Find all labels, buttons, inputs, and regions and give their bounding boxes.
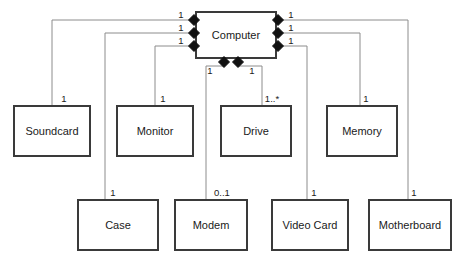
- multiplicity-diamond-bottom-left: 1: [207, 65, 212, 76]
- multiplicity-diamond-left-top: 1: [178, 9, 183, 20]
- class-box-drive-label: Drive: [243, 125, 269, 137]
- multiplicity-diamond-right-middle: 1: [288, 22, 293, 33]
- diagram-canvas: ComputerSoundcardMonitorDriveMemoryCaseM…: [0, 0, 460, 268]
- class-box-video-card[interactable]: Video Card: [272, 200, 348, 250]
- class-boxes-layer: ComputerSoundcardMonitorDriveMemoryCaseM…: [14, 12, 451, 250]
- class-box-monitor-label: Monitor: [137, 125, 174, 137]
- class-box-soundcard-label: Soundcard: [25, 125, 78, 137]
- multiplicity-soundcard: 1: [61, 93, 66, 104]
- class-box-monitor[interactable]: Monitor: [117, 106, 193, 156]
- multiplicity-diamond-right-top: 1: [288, 9, 293, 20]
- multiplicity-case: 1: [110, 187, 115, 198]
- multiplicity-video-card: 1: [311, 187, 316, 198]
- multiplicity-memory: 1: [363, 93, 368, 104]
- class-box-memory[interactable]: Memory: [327, 106, 397, 156]
- uml-class-diagram: ComputerSoundcardMonitorDriveMemoryCaseM…: [0, 0, 460, 268]
- multiplicity-diamond-bottom-right: 1: [249, 65, 254, 76]
- connector-computer-to-memory: [282, 33, 360, 106]
- class-box-modem[interactable]: Modem: [175, 200, 247, 250]
- class-box-computer-label: Computer: [212, 29, 261, 41]
- multiplicity-motherboard: 1: [411, 187, 416, 198]
- multiplicity-monitor: 1: [160, 93, 165, 104]
- class-box-computer[interactable]: Computer: [196, 12, 276, 58]
- multiplicity-drive: 1..*: [265, 93, 280, 104]
- multiplicity-diamond-right-bottom: 1: [288, 35, 293, 46]
- class-box-motherboard[interactable]: Motherboard: [369, 200, 451, 250]
- class-box-motherboard-label: Motherboard: [379, 219, 441, 231]
- class-box-modem-label: Modem: [193, 219, 230, 231]
- multiplicity-diamond-left-middle: 1: [178, 22, 183, 33]
- multiplicity-diamond-left-bottom: 1: [178, 35, 183, 46]
- class-box-case[interactable]: Case: [78, 200, 158, 250]
- class-box-video-card-label: Video Card: [283, 219, 338, 231]
- class-box-soundcard[interactable]: Soundcard: [14, 106, 90, 156]
- multiplicity-modem: 0..1: [214, 187, 230, 198]
- class-box-case-label: Case: [105, 219, 131, 231]
- class-box-memory-label: Memory: [342, 125, 382, 137]
- class-box-drive[interactable]: Drive: [221, 106, 291, 156]
